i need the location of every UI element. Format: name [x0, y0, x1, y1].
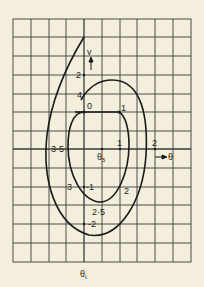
label-neg-1: -1 — [86, 182, 94, 192]
label-neg-2: -2 — [88, 219, 96, 229]
theta-t-label: θt — [80, 269, 87, 280]
theta-5-label: θ5 — [97, 152, 106, 163]
grid — [13, 19, 191, 262]
outer-trajectory — [46, 37, 146, 235]
label-2-top: 2 — [76, 70, 81, 80]
label-3: 3 — [67, 182, 72, 192]
v-axis-label: v — [87, 47, 92, 57]
trajectories — [46, 37, 146, 235]
label-3-5: 3·5 — [51, 144, 64, 154]
phase-plane-diagram: v 2 4 0 1 1 2 θ 3·5 θ5 3 -1 2 2·5 -2 θt — [0, 0, 204, 287]
theta-axis-label: θ — [168, 152, 173, 162]
label-2: 2 — [124, 186, 129, 196]
label-2-right: 2 — [152, 138, 157, 148]
label-origin: 0 — [87, 101, 92, 111]
label-2-5: 2·5 — [92, 207, 105, 217]
label-1-lower: 1 — [117, 138, 122, 148]
label-4: 4 — [77, 90, 82, 100]
label-1: 1 — [121, 103, 126, 113]
